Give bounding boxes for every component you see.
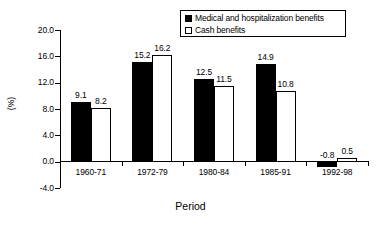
x-axis-category-label: 1972-79 xyxy=(122,168,184,177)
legend-swatch-filled-icon xyxy=(185,15,192,22)
legend-swatch-hollow-icon xyxy=(185,27,192,34)
chart-legend: Medical and hospitalization benefits Cas… xyxy=(180,10,346,37)
bar-medical xyxy=(132,62,152,162)
legend-label-medical: Medical and hospitalization benefits xyxy=(195,14,324,23)
x-axis-tick xyxy=(183,161,184,166)
x-axis-tick xyxy=(60,161,61,166)
x-axis-title: Period xyxy=(0,200,381,212)
x-axis-category-label: 1980-84 xyxy=(183,168,245,177)
legend-item-medical: Medical and hospitalization benefits xyxy=(185,13,345,24)
legend-label-cash: Cash benefits xyxy=(195,26,245,35)
y-axis-tick xyxy=(55,135,60,136)
bar-value-label: 8.2 xyxy=(85,97,117,106)
bar-value-label: 10.8 xyxy=(270,80,302,89)
bar-cash xyxy=(152,55,172,162)
bar-value-label: 11.5 xyxy=(208,75,240,84)
y-axis-tick-label: 4.0 xyxy=(24,131,54,140)
legend-item-cash: Cash benefits xyxy=(185,25,345,36)
bar-value-label: 16.2 xyxy=(146,44,178,53)
x-axis-category-label: 1960-71 xyxy=(60,168,122,177)
bar-cash xyxy=(337,158,357,161)
x-axis-category-label: 1985-91 xyxy=(245,168,307,177)
bar-medical xyxy=(71,102,91,162)
x-axis-tick xyxy=(122,161,123,166)
x-axis-tick xyxy=(368,161,369,166)
bar-value-label: 0.5 xyxy=(331,147,363,156)
x-axis-tick xyxy=(245,161,246,166)
y-axis-tick xyxy=(55,188,60,189)
y-axis-tick-label: 0.0 xyxy=(24,157,54,166)
y-axis-tick-label: 8.0 xyxy=(24,105,54,114)
y-axis-title: (%) xyxy=(7,84,16,124)
x-axis-tick xyxy=(306,161,307,166)
y-axis-tick xyxy=(55,83,60,84)
y-axis-tick-label: 12.0 xyxy=(24,78,54,87)
bar-cash xyxy=(214,86,234,162)
bar-cash xyxy=(91,108,111,162)
y-axis-tick-label: 16.0 xyxy=(24,52,54,61)
bar-value-label: 14.9 xyxy=(250,53,282,62)
y-axis-tick xyxy=(55,56,60,57)
x-axis-category-label: 1992-98 xyxy=(306,168,368,177)
bar-medical xyxy=(256,64,276,162)
y-axis-tick xyxy=(55,109,60,110)
bar-medical xyxy=(194,79,214,161)
bar-chart: 20.016.012.08.04.00.0-4.0 9.18.215.216.2… xyxy=(0,0,381,227)
y-axis-tick xyxy=(55,30,60,31)
y-axis-tick-label: -4.0 xyxy=(24,184,54,193)
y-axis-tick-label: 20.0 xyxy=(24,26,54,35)
bar-cash xyxy=(276,91,296,162)
